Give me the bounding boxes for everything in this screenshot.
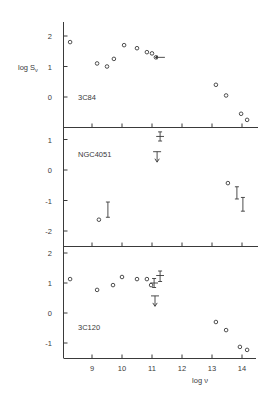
data-point xyxy=(122,43,126,47)
data-point xyxy=(149,283,153,287)
data-point xyxy=(245,348,249,352)
data-point xyxy=(95,62,99,66)
ytick-label: -2 xyxy=(45,227,52,236)
xtick-label: 13 xyxy=(208,364,216,373)
ytick-label: 0 xyxy=(48,166,52,175)
data-point xyxy=(226,181,230,185)
data-point xyxy=(120,275,124,279)
xtick-label: 12 xyxy=(178,364,186,373)
data-point xyxy=(135,46,139,50)
x-axis-label: log ν xyxy=(192,376,208,385)
y-axis-label: log Sν xyxy=(18,63,38,73)
x-tick-labels: 9 10 11 12 13 14 xyxy=(90,364,246,373)
data-point xyxy=(97,218,101,222)
ytick-label: 1 xyxy=(48,136,52,145)
data-point xyxy=(224,94,228,98)
data-point xyxy=(95,288,99,292)
ytick-label: 0 xyxy=(48,93,52,102)
xtick-label: 11 xyxy=(148,364,156,373)
y-tick-labels: 2 1 0 1 0 -1 -2 2 1 0 -1 xyxy=(45,32,52,348)
y-axis-label-subscript: ν xyxy=(35,67,38,73)
data-point xyxy=(150,52,154,56)
ytick-label: 2 xyxy=(48,32,52,41)
data-point xyxy=(238,345,242,349)
data-point xyxy=(111,283,115,287)
data-point xyxy=(224,328,228,332)
axis-ticks xyxy=(64,36,243,359)
sed-chart: 2 1 0 1 0 -1 -2 2 1 0 -1 log Sν 3C84 NGC… xyxy=(0,0,277,404)
axes-frame xyxy=(64,22,259,359)
ytick-label: 2 xyxy=(48,249,52,258)
arrow-head-icon xyxy=(155,56,157,59)
ytick-label: 1 xyxy=(48,63,52,72)
data-point xyxy=(145,277,149,281)
data-point xyxy=(68,277,72,281)
ytick-label: -1 xyxy=(45,339,52,348)
ytick-label: 0 xyxy=(48,309,52,318)
y-axis-label-main: log S xyxy=(18,63,35,72)
xtick-label: 9 xyxy=(90,364,94,373)
data-point xyxy=(239,112,243,116)
data-point xyxy=(112,57,116,61)
ytick-label: -1 xyxy=(45,197,52,206)
data-point xyxy=(68,40,72,44)
data-point xyxy=(135,277,139,281)
data-point xyxy=(245,118,249,122)
panel-label-3c120: 3C120 xyxy=(78,323,100,332)
xtick-label: 10 xyxy=(118,364,126,373)
data-marks xyxy=(68,40,249,351)
data-point xyxy=(105,65,109,69)
ytick-label: 1 xyxy=(48,279,52,288)
data-point xyxy=(214,83,218,87)
data-point xyxy=(214,320,218,324)
panel-label-ngc4051: NGC4051 xyxy=(78,150,111,159)
panel-label-3c84: 3C84 xyxy=(78,93,96,102)
xtick-label: 14 xyxy=(238,364,246,373)
data-point xyxy=(145,50,149,54)
